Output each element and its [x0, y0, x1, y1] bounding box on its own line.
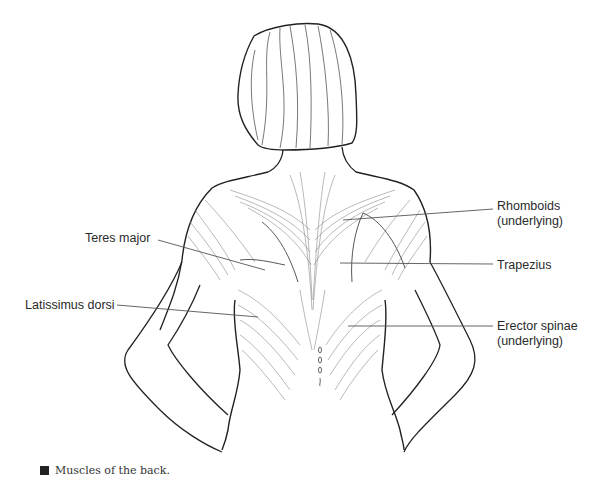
shoulder-fibers [188, 200, 427, 280]
figure-caption: Muscles of the back. [40, 464, 170, 477]
caption-text: Muscles of the back. [55, 464, 170, 477]
label-erector-spinae: Erector spinae (underlying) [497, 319, 578, 349]
neck [268, 147, 356, 172]
leader-trapezius [340, 263, 493, 264]
label-erector-spinae-line2: (underlying) [497, 334, 578, 349]
label-rhomboids-line1: Rhomboids [497, 199, 563, 214]
torso-outline [160, 172, 430, 450]
label-latissimus-dorsi: Latissimus dorsi [25, 298, 115, 313]
leader-lines [117, 209, 493, 326]
latissimus-fibers [238, 290, 382, 400]
arms [125, 262, 475, 452]
label-erector-spinae-line1: Erector spinae [497, 319, 578, 334]
label-rhomboids-line2: (underlying) [497, 214, 563, 229]
lumbar-vertebrae-marks [319, 347, 322, 386]
label-teres-major: Teres major [85, 231, 150, 246]
trapezius-fibers [230, 172, 395, 310]
square-bullet-icon [40, 466, 49, 475]
label-trapezius: Trapezius [497, 258, 551, 273]
leader-latissimus-dorsi [117, 305, 258, 317]
label-rhomboids: Rhomboids (underlying) [497, 199, 563, 229]
leader-teres-major [158, 240, 265, 270]
back-muscles-illustration [0, 0, 598, 499]
